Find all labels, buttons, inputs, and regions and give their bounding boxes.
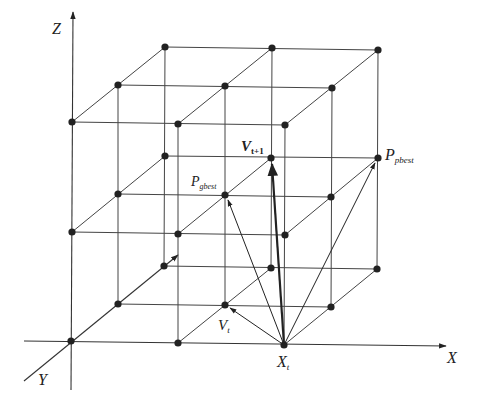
node <box>281 231 288 238</box>
lattice-nodes <box>67 43 381 348</box>
z-axis-label: Z <box>52 21 61 37</box>
node <box>281 121 288 128</box>
p-gbest-sub: gbest <box>200 182 217 191</box>
p-pbest-label: Ppbest <box>385 147 414 165</box>
node-v-t <box>221 301 228 308</box>
axes <box>24 12 446 390</box>
node-p-pbest <box>374 154 381 161</box>
p-gbest-label: Pgbest <box>191 175 216 191</box>
node <box>161 152 168 159</box>
x-t-main: X <box>277 353 287 370</box>
y-axis <box>24 255 178 381</box>
vectors <box>228 163 375 345</box>
node <box>160 262 167 269</box>
vector-to-v-t <box>230 308 284 345</box>
node <box>221 82 228 89</box>
x-t-label: Xt <box>277 354 289 372</box>
p-gbest-main: P <box>191 174 200 189</box>
node <box>174 120 181 127</box>
v-t-sub: t <box>227 325 230 335</box>
node <box>68 118 75 125</box>
y-axis-label: Y <box>38 372 47 388</box>
node <box>327 303 334 310</box>
pso-lattice-diagram <box>0 0 483 402</box>
x-axis-label: X <box>447 350 457 366</box>
vector-to-p-pbest <box>284 163 375 345</box>
node <box>373 265 380 272</box>
p-pbest-main: P <box>385 146 395 163</box>
x-t-sub: t <box>287 362 290 372</box>
node <box>328 84 335 91</box>
node-origin <box>67 337 74 344</box>
v-next-sub: t+1 <box>251 146 264 156</box>
node <box>174 230 181 237</box>
node <box>114 81 121 88</box>
x-axis <box>24 341 446 346</box>
node <box>327 193 334 200</box>
node <box>268 44 275 51</box>
v-next-main: V <box>241 138 251 154</box>
node <box>267 264 274 271</box>
v-next-label: Vt+1 <box>241 139 264 156</box>
node-p-gbest <box>221 191 228 198</box>
node <box>174 339 181 346</box>
node <box>68 228 75 235</box>
node <box>114 300 121 307</box>
node <box>161 43 168 50</box>
v-t-label: Vt <box>218 318 230 335</box>
v-t-main: V <box>218 317 227 333</box>
node-v-next <box>267 154 274 161</box>
node <box>114 190 121 197</box>
z-axis <box>71 12 73 390</box>
node <box>374 46 381 53</box>
p-pbest-sub: pbest <box>395 155 414 165</box>
